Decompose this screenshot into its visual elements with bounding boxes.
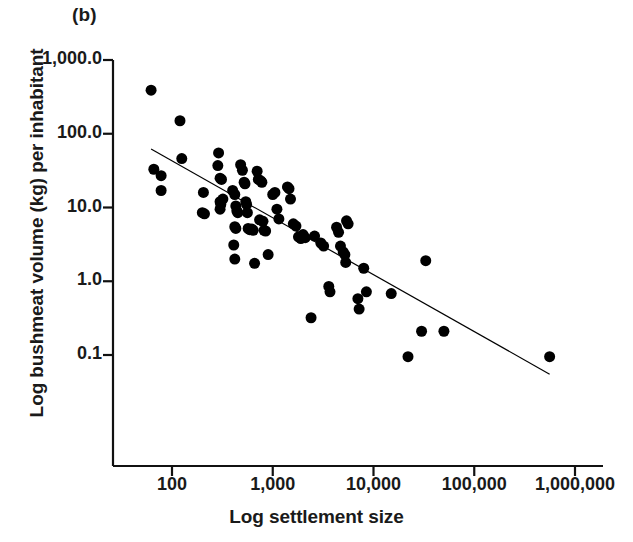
data-point bbox=[284, 183, 295, 194]
data-point bbox=[156, 170, 167, 181]
data-point bbox=[198, 187, 209, 198]
data-point bbox=[318, 241, 329, 252]
data-point bbox=[285, 194, 296, 205]
data-point bbox=[230, 223, 241, 234]
y-tick-label: 100.0 bbox=[57, 122, 102, 143]
data-point bbox=[352, 293, 363, 304]
data-point bbox=[343, 218, 354, 229]
data-points bbox=[146, 85, 556, 362]
data-point bbox=[199, 208, 210, 219]
data-point bbox=[260, 226, 271, 237]
x-tick-label: 100,000 bbox=[442, 474, 507, 495]
figure-panel-b: (b) Log bushmeat volume (kg) per inhabit… bbox=[0, 0, 633, 542]
data-point bbox=[361, 286, 372, 297]
x-tick-label: 1,000 bbox=[250, 474, 295, 495]
data-point bbox=[420, 255, 431, 266]
data-point bbox=[358, 263, 369, 274]
data-point bbox=[438, 326, 449, 337]
x-tick-label: 1,000,000 bbox=[535, 474, 615, 495]
data-point bbox=[229, 189, 240, 200]
data-point bbox=[544, 351, 555, 362]
data-point bbox=[216, 174, 227, 185]
data-point bbox=[354, 304, 365, 315]
data-point bbox=[340, 257, 351, 268]
data-point bbox=[237, 165, 248, 176]
x-tick-label: 100 bbox=[157, 474, 187, 495]
y-tick-label: 0.1 bbox=[77, 343, 102, 364]
data-point bbox=[242, 207, 253, 218]
data-point bbox=[228, 240, 239, 251]
data-point bbox=[217, 194, 228, 205]
data-point bbox=[174, 115, 185, 126]
data-point bbox=[215, 204, 226, 215]
data-point bbox=[249, 258, 260, 269]
data-point bbox=[324, 286, 335, 297]
data-point bbox=[386, 288, 397, 299]
data-point bbox=[306, 312, 317, 323]
y-tick-label: 1,000.0 bbox=[42, 48, 102, 69]
y-tick-label: 1.0 bbox=[77, 269, 102, 290]
data-point bbox=[300, 232, 311, 243]
data-point bbox=[263, 249, 274, 260]
data-point bbox=[290, 221, 301, 232]
data-point bbox=[416, 326, 427, 337]
data-point bbox=[229, 254, 240, 265]
data-point bbox=[212, 160, 223, 171]
y-tick-label: 10.0 bbox=[67, 196, 102, 217]
data-point bbox=[176, 153, 187, 164]
data-point bbox=[213, 147, 224, 158]
data-point bbox=[402, 351, 413, 362]
data-point bbox=[156, 185, 167, 196]
data-point bbox=[333, 227, 344, 238]
data-point bbox=[256, 177, 267, 188]
data-point bbox=[146, 85, 157, 96]
x-tick-label: 10,000 bbox=[346, 474, 401, 495]
data-point bbox=[269, 187, 280, 198]
data-point bbox=[232, 207, 243, 218]
data-point bbox=[239, 178, 250, 189]
data-point bbox=[273, 213, 284, 224]
data-point bbox=[248, 225, 259, 236]
data-point bbox=[271, 204, 282, 215]
